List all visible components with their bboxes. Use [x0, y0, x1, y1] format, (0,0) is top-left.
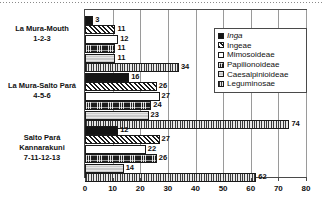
- bar-value-label: 27: [162, 90, 170, 101]
- bar-mimosoideae-1: [85, 92, 160, 101]
- legend-label: Papilionoideae: [227, 60, 280, 69]
- category-label-1-line-0: La Mura-Salto Pará: [0, 81, 84, 91]
- bar-papilionoideae-1: [85, 101, 151, 110]
- bar-papilionoideae-2: [85, 154, 157, 163]
- bar-value-label: 3: [95, 14, 99, 25]
- bar-mimosoideae-0: [85, 35, 118, 44]
- legend-label: Inga: [227, 31, 243, 40]
- bar-row: 12: [85, 126, 308, 135]
- x-tick-40: [196, 178, 197, 181]
- x-tick-label-40: 40: [191, 183, 200, 194]
- x-axis-tick-labels: 01020304050607080: [84, 183, 307, 197]
- category-label-0-line-1: 1-2-3: [0, 34, 84, 44]
- legend-item-inga[interactable]: Inga: [218, 31, 303, 41]
- chart-legend: IngaIngeaeMimosoideaePapilionoideaeCaesa…: [214, 28, 307, 93]
- x-tick-label-20: 20: [136, 183, 145, 194]
- bar-mimosoideae-2: [85, 145, 146, 154]
- legend-item-papilionoideae[interactable]: Papilionoideae: [218, 60, 303, 70]
- bar-value-label: 14: [126, 162, 134, 173]
- bar-value-label: 16: [131, 71, 139, 82]
- bar-chart-figure: La Mura-Mouth 1-2-3 La Mura-Salto Pará 4…: [0, 0, 323, 203]
- bar-value-label: 34: [181, 61, 189, 72]
- x-tick-30: [168, 178, 169, 181]
- legend-label: Caesalpinioideae: [227, 70, 288, 79]
- x-tick-label-80: 80: [302, 183, 311, 194]
- page-top-rule: [0, 2, 323, 3]
- bar-value-label: 26: [159, 152, 167, 163]
- bar-row: 24: [85, 101, 308, 110]
- legend-label: Mimosoideae: [227, 50, 275, 59]
- bar-inga-0: [85, 16, 93, 25]
- bar-caesalpinioideae-2: [85, 164, 124, 173]
- x-axis-ticks: [84, 178, 307, 182]
- x-tick-0: [85, 178, 86, 181]
- legend-item-ingeae[interactable]: Ingeae: [218, 41, 303, 51]
- bar-row: 27: [85, 135, 308, 144]
- category-label-2-line-1: Kannarakuni: [0, 143, 84, 153]
- category-label-2: Salto Pará Kannarakuni 7-11-12-13: [0, 133, 84, 163]
- bar-value-label: 23: [151, 109, 159, 120]
- x-tick-70: [278, 178, 279, 181]
- legend-label: Ingeae: [227, 41, 251, 50]
- legend-swatch-icon-papilionoideae: [218, 62, 224, 68]
- x-tick-label-60: 60: [246, 183, 255, 194]
- bar-caesalpinioideae-0: [85, 54, 115, 63]
- category-label-0-line-0: La Mura-Mouth: [0, 24, 84, 34]
- legend-swatch-icon-inga: [218, 33, 224, 39]
- x-tick-60: [251, 178, 252, 181]
- category-label-2-line-2: 7-11-12-13: [0, 153, 84, 163]
- legend-item-mimosoideae[interactable]: Mimosoideae: [218, 50, 303, 60]
- legend-swatch-icon-caesalpinioideae: [218, 71, 224, 77]
- category-label-2-line-0: Salto Pará: [0, 133, 84, 143]
- x-tick-label-30: 30: [163, 183, 172, 194]
- category-label-1-line-1: 4-5-6: [0, 91, 84, 101]
- bar-row: 23: [85, 111, 308, 120]
- x-tick-50: [223, 178, 224, 181]
- legend-label: Leguminosae: [227, 79, 275, 88]
- bar-row: 14: [85, 164, 308, 173]
- bar-ingeae-1: [85, 82, 157, 91]
- x-tick-20: [140, 178, 141, 181]
- bar-ingeae-0: [85, 25, 115, 34]
- bar-value-label: 11: [117, 52, 125, 63]
- bar-value-label: 27: [162, 133, 170, 144]
- bar-row: 27: [85, 92, 308, 101]
- x-tick-label-10: 10: [108, 183, 117, 194]
- bar-value-label: 22: [148, 143, 156, 154]
- x-tick-label-0: 0: [83, 183, 87, 194]
- category-label-0: La Mura-Mouth 1-2-3: [0, 24, 84, 44]
- x-tick-label-70: 70: [274, 183, 283, 194]
- bar-row: 22: [85, 145, 308, 154]
- x-tick-label-50: 50: [219, 183, 228, 194]
- bar-papilionoideae-0: [85, 44, 115, 53]
- category-label-1: La Mura-Salto Pará 4-5-6: [0, 81, 84, 101]
- bar-caesalpinioideae-1: [85, 111, 149, 120]
- legend-item-caesalpinioideae[interactable]: Caesalpinioideae: [218, 69, 303, 79]
- legend-item-leguminosae[interactable]: Leguminosae: [218, 79, 303, 89]
- bar-inga-2: [85, 126, 118, 135]
- legend-swatch-icon-ingeae: [218, 42, 224, 48]
- bar-value-label: 12: [120, 124, 128, 135]
- legend-swatch-icon-leguminosae: [218, 81, 224, 87]
- bar-row: 26: [85, 154, 308, 163]
- legend-swatch-icon-mimosoideae: [218, 52, 224, 58]
- x-tick-10: [113, 178, 114, 181]
- x-tick-80: [306, 178, 307, 181]
- bar-inga-1: [85, 73, 129, 82]
